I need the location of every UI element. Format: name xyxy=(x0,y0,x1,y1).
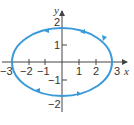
x-tick-label: 2 xyxy=(93,65,99,77)
arrow-icon xyxy=(102,35,107,41)
y-tick-label: −2 xyxy=(48,98,61,110)
y-tick-label: 2 xyxy=(54,16,60,28)
x-axis-label: x xyxy=(123,65,129,77)
x-tick-label: −2 xyxy=(20,65,33,77)
x-tick-label: 3 xyxy=(114,65,120,77)
ellipse-chart: −3 −2 −1 1 2 3 x 2 1 −1 −2 y xyxy=(0,0,134,125)
x-tick-label: 1 xyxy=(76,65,82,77)
x-tick-label: −3 xyxy=(0,65,13,77)
y-tick-label: −1 xyxy=(48,74,61,86)
y-axis-label: y xyxy=(53,4,59,16)
y-tick-label: 1 xyxy=(54,39,60,51)
